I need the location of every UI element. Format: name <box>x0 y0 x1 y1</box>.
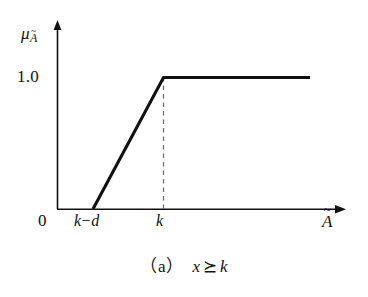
y-axis-label-mu: μ <box>21 24 30 43</box>
y-axis-label: μA~ <box>21 25 37 44</box>
origin-label: 0 <box>38 212 47 229</box>
x-axis-label: A~ <box>322 213 332 230</box>
figure-container: μA~ 1.0 0 k−d k A~ （a）x⪰k <box>0 0 368 297</box>
x-tick-label-k-minus-d: k−d <box>74 213 99 229</box>
tilde-accent-icon: ~ <box>323 204 331 218</box>
plot-canvas <box>0 0 368 297</box>
caption-expression-right: k <box>220 257 228 276</box>
y-tick-label-one: 1.0 <box>17 68 39 85</box>
membership-function-curve <box>93 78 310 210</box>
x-tick-k-minus-d-k: k <box>74 212 81 229</box>
x-axis-arrowhead <box>335 205 346 213</box>
minus-operator: − <box>82 212 91 229</box>
caption-expression: x⪰k <box>192 257 227 276</box>
caption-expression-left: x <box>192 257 200 276</box>
y-axis-label-subscript: A~ <box>30 31 37 45</box>
succeeds-or-equals-icon: ⪰ <box>203 257 217 276</box>
tilde-accent-icon: ~ <box>31 26 36 36</box>
caption-index: （a） <box>140 257 183 276</box>
x-tick-k-minus-d-d: d <box>91 212 99 229</box>
figure-caption: （a）x⪰k <box>0 258 368 275</box>
y-axis-arrowhead <box>54 20 62 30</box>
x-tick-label-k: k <box>156 213 163 229</box>
